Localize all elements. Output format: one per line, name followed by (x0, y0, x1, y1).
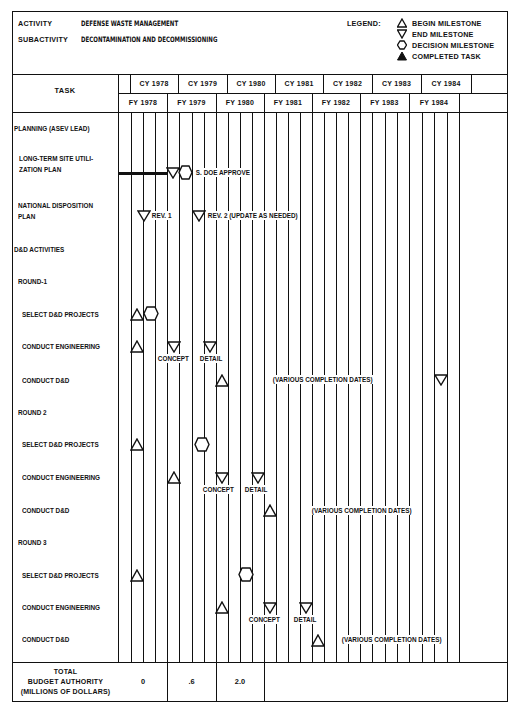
task-planning: PLANNING (ASEV LEAD) (14, 123, 90, 134)
concept-note: CONCEPT (157, 354, 190, 363)
fy-divider (459, 93, 460, 112)
various-dates-note: (VARIOUS COMPLETION DATES) (272, 375, 373, 384)
activity-value: DEFENSE WASTE MANAGEMENT (81, 19, 178, 28)
task-r2-select: SELECT D&D PROJECTS (22, 439, 99, 450)
decision-milestone-icon (143, 306, 159, 321)
end-milestone-icon (434, 374, 448, 386)
decision-milestone-icon (238, 567, 254, 582)
grid-line (434, 112, 435, 662)
grid-line (179, 112, 180, 662)
end-milestone-icon (203, 341, 217, 353)
task-r2-engineering: CONDUCT ENGINEERING (22, 472, 100, 483)
cy-1979: CY 1979 (178, 80, 227, 87)
task-r3-conduct: CONDUCT D&D (22, 634, 69, 645)
cy-1981: CY 1981 (275, 80, 323, 87)
end-milestone-icon (251, 472, 265, 484)
budget-label-line3: (MILLIONS OF DOLLARS) (12, 687, 119, 697)
grid-line (192, 112, 193, 662)
budget-label-line1: TOTAL (12, 667, 119, 677)
grid-line (204, 112, 205, 662)
cy-1983: CY 1983 (372, 80, 421, 87)
task-r1-select: SELECT D&D PROJECTS (22, 309, 99, 320)
subactivity-value: DECONTAMINATION AND DECOMMISSIONING (81, 35, 217, 44)
task-round-1: ROUND-1 (18, 276, 47, 287)
task-r3-select: SELECT D&D PROJECTS (22, 570, 99, 581)
detail-note: DETAIL (244, 485, 268, 494)
rev1-note: REV. 1 (151, 211, 172, 220)
end-milestone-icon (167, 341, 181, 353)
begin-milestone-icon (130, 308, 144, 321)
begin-milestone-icon (215, 601, 229, 614)
grid-line (422, 112, 423, 662)
various-dates-note: (VARIOUS COMPLETION DATES) (311, 506, 412, 515)
budget-fy1979: .6 (167, 677, 216, 686)
fy-1981: FY 1981 (264, 99, 312, 106)
concept-note: CONCEPT (248, 615, 281, 624)
budget-cell-divider (264, 662, 265, 702)
task-r1-engineering: CONDUCT ENGINEERING (22, 341, 100, 352)
fy-1983: FY 1983 (360, 99, 409, 106)
subactivity-label: SUBACTIVITY (18, 35, 68, 44)
decision-milestone-icon (397, 40, 407, 50)
budget-divider (12, 662, 508, 663)
task-dd-activities: D&D ACTIVITIES (14, 244, 64, 255)
concept-note: CONCEPT (202, 485, 235, 494)
grid-line (276, 112, 277, 662)
task-round-2: ROUND 2 (18, 407, 47, 418)
grid-line (288, 112, 289, 662)
end-milestone-icon (299, 602, 313, 614)
task-r1-conduct: CONDUCT D&D (22, 375, 69, 386)
completed-task-bar (119, 172, 167, 175)
decision-milestone-icon (178, 165, 193, 180)
cy-1978: CY 1978 (130, 80, 178, 87)
legend-title: LEGEND: (347, 19, 381, 28)
detail-note: DETAIL (293, 615, 317, 624)
task-round-3: ROUND 3 (18, 537, 47, 548)
cy-1982: CY 1982 (323, 80, 372, 87)
grid-line (155, 112, 156, 662)
begin-milestone-icon (263, 504, 277, 517)
grid-line (300, 112, 301, 662)
end-milestone-icon (215, 472, 229, 484)
task-r3-engineering: CONDUCT ENGINEERING (22, 602, 100, 613)
cy-divider (471, 75, 472, 93)
begin-milestone-icon (397, 18, 407, 28)
grid-line (228, 112, 229, 662)
grid-line (336, 112, 337, 662)
begin-milestone-icon (167, 471, 181, 484)
legend-begin-label: BEGIN MILESTONE (412, 19, 482, 28)
budget-fy1980: 2.0 (216, 677, 264, 686)
fy-1982: FY 1982 (312, 99, 360, 106)
budget-fy1978: 0 (119, 677, 167, 686)
begin-milestone-icon (311, 634, 325, 647)
grid-line (324, 112, 325, 662)
cy-fy-divider (118, 93, 508, 94)
grid-line (372, 112, 373, 662)
legend-decision-label: DECISION MILESTONE (412, 41, 494, 50)
end-milestone-icon (137, 210, 151, 222)
end-milestone-icon (263, 602, 277, 614)
decision-milestone-icon (194, 437, 210, 452)
cy-1984: CY 1984 (421, 80, 471, 87)
grid-line (360, 112, 361, 662)
legend-completed-label: COMPLETED TASK (412, 52, 481, 61)
fy-1979: FY 1979 (167, 99, 216, 106)
task-national-disposition-2: PLAN (18, 211, 35, 222)
legend-end-label: END MILESTONE (412, 30, 474, 39)
header-divider (12, 74, 508, 75)
cy-1980: CY 1980 (227, 80, 275, 87)
grid-line (385, 112, 386, 662)
begin-milestone-icon (215, 374, 229, 387)
task-header: TASK (12, 86, 118, 95)
grid-line (312, 112, 313, 662)
budget-label-line2: BUDGET AUTHORITY (12, 677, 119, 687)
begin-milestone-icon (130, 569, 144, 582)
grid-line (447, 112, 448, 662)
task-long-term-site-2: ZATION PLAN (19, 164, 61, 175)
grid-line (216, 112, 217, 662)
completed-task-icon (397, 51, 407, 61)
task-national-disposition: NATIONAL DISPOSITION (18, 200, 93, 211)
task-r2-conduct: CONDUCT D&D (22, 505, 69, 516)
grid-line (459, 112, 460, 662)
grid-line (264, 112, 265, 662)
